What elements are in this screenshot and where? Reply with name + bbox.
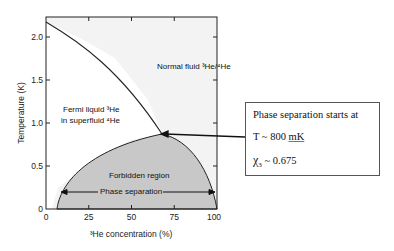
forbidden-region-label: Forbidden region [109, 171, 169, 180]
x-tick-100: 100 [207, 212, 221, 222]
y-tick-1.5: 1.5 [31, 75, 43, 85]
callout-line-3: χ3 ~ 0.675 [253, 153, 379, 175]
fermi-liquid-label-2: in superfluid ⁴He [61, 116, 121, 125]
fermi-liquid-label-1: Fermi liquid ³He [63, 105, 120, 114]
x-tick-50: 50 [127, 212, 137, 222]
x-tick-75: 75 [170, 212, 180, 222]
y-tick-1.0: 1.0 [31, 118, 43, 128]
normal-fluid-label: Normal fluid ³He/⁴He [157, 62, 231, 71]
y-tick-0: 0 [38, 204, 43, 214]
phase-separation-label: Phase separation [100, 187, 162, 196]
callout-line-2: T ~ 800 mK [253, 131, 379, 153]
callout-line-1: Phase separation starts at [253, 109, 379, 131]
x-tick-25: 25 [84, 212, 94, 222]
y-axis-title: Temperature (K) [16, 82, 26, 144]
y-tick-2.0: 2.0 [31, 32, 43, 42]
y-tick-0.5: 0.5 [31, 161, 43, 171]
callout-box: Phase separation starts at T ~ 800 mK χ3… [245, 102, 380, 176]
x-axis-title: ³He concentration (%) [90, 229, 173, 239]
x-tick-0: 0 [44, 212, 49, 222]
